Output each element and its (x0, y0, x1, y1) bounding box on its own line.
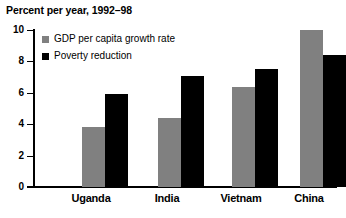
category-label-vietnam: Vietnam (206, 192, 276, 204)
chart-title: Percent per year, 1992–98 (6, 4, 132, 16)
y-axis-label-2: 2 (0, 151, 24, 161)
category-label-china: China (274, 192, 344, 204)
y-tick-0 (27, 187, 34, 188)
y-tick-2 (27, 156, 34, 157)
bar-group-vietnam (232, 30, 278, 187)
y-axis-label-6: 6 (0, 88, 24, 98)
y-tick-8 (27, 61, 34, 62)
y-tick-10 (27, 30, 34, 31)
bar-uganda-gdp (82, 127, 105, 187)
legend-swatch-gdp-icon (42, 36, 49, 43)
legend-swatch-poverty-icon (42, 53, 49, 60)
bar-group-china (300, 30, 346, 187)
chart-legend: GDP per capita growth rate Poverty reduc… (42, 32, 175, 66)
category-label-uganda: Uganda (56, 192, 126, 204)
bar-china-poverty (323, 55, 346, 187)
legend-item-gdp: GDP per capita growth rate (42, 32, 175, 46)
y-axis-label-0: 0 (0, 182, 24, 192)
y-axis-label-10: 10 (0, 25, 24, 35)
y-axis-labels: 10 8 6 4 2 0 (0, 0, 24, 218)
category-label-india: India (132, 192, 202, 204)
bar-india-poverty (181, 76, 204, 187)
bar-vietnam-poverty (255, 69, 278, 187)
bar-china-gdp (300, 30, 323, 187)
bar-uganda-poverty (105, 94, 128, 187)
legend-item-poverty: Poverty reduction (42, 49, 175, 63)
y-tick-6 (27, 93, 34, 94)
y-axis-label-8: 8 (0, 56, 24, 66)
bar-india-gdp (158, 118, 181, 187)
y-axis-label-4: 4 (0, 119, 24, 129)
legend-label-poverty: Poverty reduction (54, 51, 132, 61)
bar-vietnam-gdp (232, 87, 255, 187)
legend-label-gdp: GDP per capita growth rate (54, 34, 175, 44)
y-tick-4 (27, 124, 34, 125)
